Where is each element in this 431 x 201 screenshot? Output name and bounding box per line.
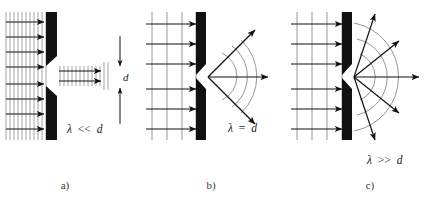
panel-b-lambda: λ: [227, 122, 233, 134]
panel-b-ray-down: [208, 77, 255, 124]
panel-a-incident-wavefronts: [6, 12, 46, 140]
panel-a-relation: <<: [78, 123, 91, 135]
panel-b-relation: =: [239, 122, 246, 134]
panel-b-d: d: [251, 122, 257, 134]
panel-b-incident-wavefronts: [152, 12, 196, 140]
panel-c-incident-wavefronts: [297, 12, 342, 140]
diffraction-figure: d λ << d a): [0, 0, 431, 201]
panel-a-dimension-label: d: [123, 71, 129, 83]
panel-b-ray-up: [208, 30, 255, 77]
panel-a: d λ << d a): [6, 12, 129, 192]
panel-a-d: d: [97, 123, 103, 135]
panel-c-incident-rays: [291, 24, 342, 129]
panel-a-transmitted-wavefronts: [60, 62, 108, 90]
panel-c: λ >> d c): [291, 12, 419, 192]
panel-c-relation: >>: [378, 154, 391, 166]
panel-b-caption: b): [206, 179, 216, 192]
panel-c-lambda: λ: [366, 154, 372, 166]
panel-c-barrier: [342, 12, 352, 140]
panel-a-caption: a): [61, 179, 70, 192]
panel-b-incident-rays: [146, 24, 196, 129]
panel-c-condition-label: λ >> d: [366, 154, 403, 166]
panel-b-diffracted-rays: [208, 30, 268, 124]
panel-c-diffracted-rays: [354, 14, 419, 140]
panel-a-lambda: λ: [66, 123, 72, 135]
panel-b: λ = d b): [146, 12, 268, 192]
panel-c-ray-down-inner: [354, 77, 399, 113]
panel-c-ray-up-inner: [354, 41, 399, 77]
figure-canvas: d λ << d a): [0, 0, 431, 201]
panel-b-barrier: [196, 12, 206, 140]
panel-a-barrier: [46, 12, 57, 140]
panel-c-d: d: [397, 154, 403, 166]
panel-a-condition-label: λ << d: [66, 123, 103, 135]
panel-b-condition-label: λ = d: [227, 122, 257, 134]
panel-c-caption: c): [366, 179, 375, 192]
